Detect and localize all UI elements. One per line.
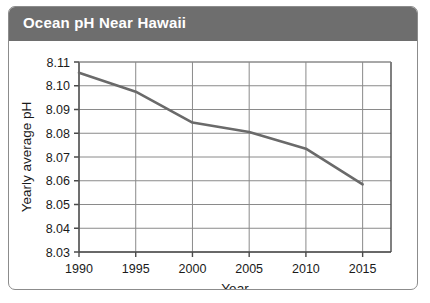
x-tick-label: 2000 — [179, 262, 207, 276]
y-tick-label: 8.09 — [46, 103, 70, 117]
y-tick-label: 8.11 — [47, 56, 70, 70]
y-tick-label: 8.07 — [46, 151, 70, 165]
x-tick-label: 2005 — [235, 262, 263, 276]
y-tick-label: 8.05 — [46, 198, 70, 212]
y-axis-title: Yearly average pH — [19, 102, 34, 213]
chart-figure: Ocean pH Near Hawaii 8.038.048.058.068.0… — [8, 6, 418, 290]
chart-title-bar: Ocean pH Near Hawaii — [9, 7, 417, 41]
x-tick-label: 1995 — [122, 262, 150, 276]
y-tick-label: 8.10 — [46, 79, 70, 93]
line-chart-svg: 8.038.048.058.068.078.088.098.108.111990… — [9, 41, 418, 290]
plot-area: 8.038.048.058.068.078.088.098.108.111990… — [9, 41, 418, 290]
y-tick-label: 8.03 — [46, 246, 70, 260]
x-tick-label: 2010 — [292, 262, 320, 276]
y-tick-label: 8.06 — [46, 174, 70, 188]
x-tick-label: 2015 — [349, 262, 377, 276]
chart-title: Ocean pH Near Hawaii — [23, 14, 186, 31]
x-axis-title: Year — [221, 281, 249, 290]
x-tick-label: 1990 — [65, 262, 93, 276]
data-series-line — [79, 73, 363, 185]
y-tick-label: 8.04 — [46, 222, 70, 236]
y-tick-label: 8.08 — [46, 127, 70, 141]
